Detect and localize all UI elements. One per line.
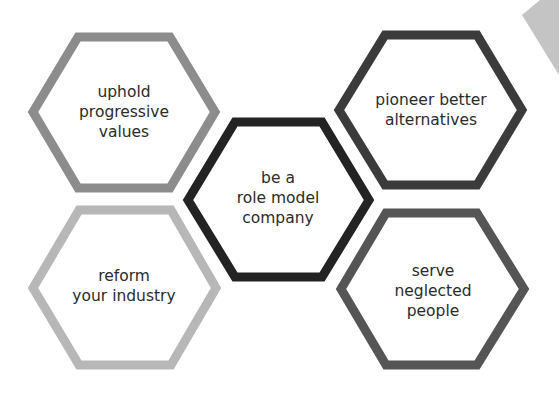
label-line: neglected: [394, 281, 471, 301]
label-line: progressive: [79, 102, 169, 122]
label-line: your industry: [72, 286, 175, 306]
label-pioneer: pioneer better alternatives: [375, 90, 486, 130]
label-line: people: [394, 301, 471, 321]
label-uphold: uphold progressive values: [79, 82, 169, 142]
label-line: be a: [237, 168, 320, 188]
label-line: uphold: [79, 82, 169, 102]
label-line: serve: [394, 261, 471, 281]
label-line: pioneer better: [375, 90, 486, 110]
label-reform: reform your industry: [72, 266, 175, 306]
label-line: alternatives: [375, 110, 486, 130]
label-line: values: [79, 122, 169, 142]
label-center: be a role model company: [237, 168, 320, 228]
label-line: company: [237, 208, 320, 228]
label-serve: serve neglected people: [394, 261, 471, 321]
corner-hexagon-fragment: [522, 0, 559, 75]
label-line: role model: [237, 188, 320, 208]
label-line: reform: [72, 266, 175, 286]
